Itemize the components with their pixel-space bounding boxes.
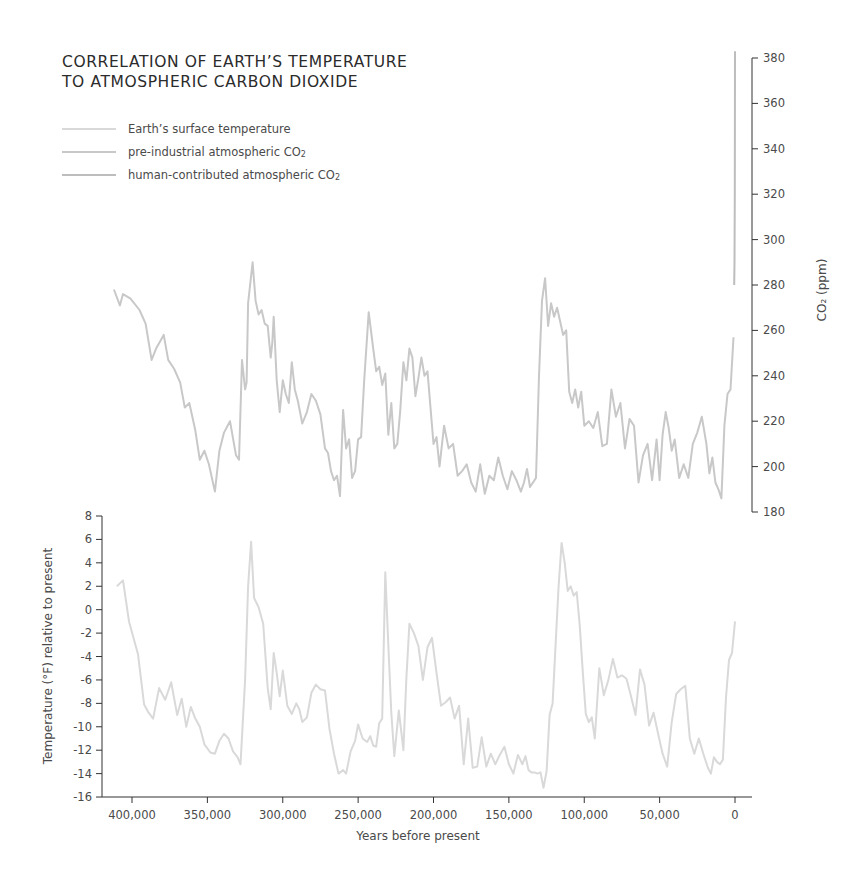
temp-tick-label: -14 — [73, 767, 92, 781]
x-tick-label: 150,000 — [485, 808, 533, 822]
x-tick-label: 50,000 — [640, 808, 680, 822]
temp-tick-label: 6 — [85, 532, 92, 546]
co2-tick-label: 200 — [763, 460, 785, 474]
temp-tick-label: 4 — [85, 556, 92, 570]
series-lines — [114, 51, 735, 788]
co2-tick-label: 260 — [763, 323, 785, 337]
chart-canvas: 380360340320300280260240220200180CO₂ (pp… — [0, 0, 868, 882]
co2-tick-label: 340 — [763, 142, 785, 156]
x-tick-label: 350,000 — [184, 808, 232, 822]
co2-tick-label: 300 — [763, 233, 785, 247]
co2-tick-label: 240 — [763, 369, 785, 383]
temp-tick-label: -6 — [81, 673, 92, 687]
temp-axis-label: Temperature (°F) relative to present — [41, 547, 55, 765]
x-tick-label: 400,000 — [108, 808, 156, 822]
x-tick-label: 0 — [731, 808, 738, 822]
co2-preindustrial-line — [114, 262, 734, 498]
temp-tick-label: -16 — [73, 790, 92, 804]
years-axis: 400,000350,000300,000250,000200,000150,0… — [102, 797, 752, 843]
temp-tick-label: -8 — [81, 696, 92, 710]
temp-tick-label: 0 — [85, 603, 92, 617]
co2-tick-label: 320 — [763, 187, 785, 201]
co2-tick-label: 280 — [763, 278, 785, 292]
co2-tick-label: 180 — [763, 505, 785, 519]
co2-human-line — [734, 51, 735, 285]
x-tick-label: 300,000 — [259, 808, 307, 822]
x-axis-label: Years before present — [355, 829, 480, 843]
x-tick-label: 250,000 — [334, 808, 382, 822]
temp-tick-label: -4 — [81, 650, 92, 664]
temp-tick-label: -10 — [73, 720, 92, 734]
co2-axis: 380360340320300280260240220200180CO₂ (pp… — [752, 51, 829, 519]
co2-tick-label: 380 — [763, 51, 785, 65]
temp-tick-label: 8 — [85, 509, 92, 523]
temp-tick-label: -12 — [73, 743, 92, 757]
co2-axis-label: CO₂ (ppm) — [815, 259, 829, 322]
x-tick-label: 100,000 — [560, 808, 608, 822]
temp-tick-label: -2 — [81, 626, 92, 640]
temp-tick-label: 2 — [85, 579, 92, 593]
temperature-line — [117, 542, 735, 788]
temperature-axis: 86420-2-4-6-8-10-12-14-16Temperature (°F… — [41, 509, 102, 804]
co2-tick-label: 220 — [763, 414, 785, 428]
co2-tick-label: 360 — [763, 96, 785, 110]
x-tick-label: 200,000 — [410, 808, 458, 822]
